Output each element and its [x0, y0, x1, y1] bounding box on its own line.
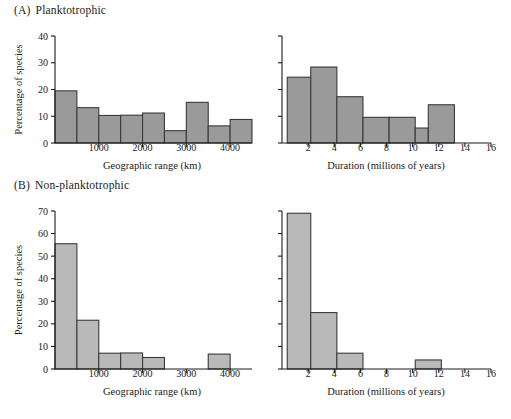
x-tick-label: 4000 [220, 142, 240, 153]
histogram-bar [287, 213, 311, 369]
histogram-bar [77, 108, 99, 143]
histogram-bar [143, 113, 165, 143]
x-tick-label: 14 [460, 142, 470, 153]
x-tick-label: 2000 [133, 368, 153, 379]
y-tick-label: 70 [38, 206, 48, 217]
x-tick-label: 3000 [176, 368, 196, 379]
x-tick-label: 4 [332, 142, 337, 153]
x-axis-title: Duration (millions of years) [327, 160, 445, 172]
y-tick-label: 20 [38, 84, 48, 95]
histogram-bar [208, 354, 230, 369]
y-tick-label: 0 [43, 364, 48, 375]
panel-b-label: Non-planktotrophic [35, 179, 129, 191]
x-tick-label: 2 [306, 368, 311, 379]
x-tick-label: 16 [486, 368, 496, 379]
bars-group [287, 213, 441, 369]
x-tick-label: 16 [486, 142, 496, 153]
y-tick-label: 10 [38, 341, 48, 352]
bars-group [55, 244, 230, 369]
chart-a-duration: 246810121416Duration (millions of years) [255, 18, 511, 175]
panel-a-tag: (A) [14, 4, 31, 16]
bars-group [287, 67, 454, 143]
y-tick-label: 10 [38, 111, 48, 122]
x-tick-label: 8 [384, 368, 389, 379]
y-tick-label: 20 [38, 318, 48, 329]
panel-a-title: (A)Planktotrophic [14, 4, 106, 16]
x-tick-label: 6 [358, 368, 363, 379]
histogram-bar [208, 126, 230, 143]
chart-svg-a1: 0102030401000200030004000Geographic rang… [0, 18, 256, 175]
panel-b-non-planktotrophic: (B)Non-planktotrophic 010203040506070100… [0, 175, 511, 419]
histogram-bar [55, 244, 77, 369]
panel-b-tag: (B) [14, 179, 30, 191]
x-tick-label: 4000 [220, 368, 240, 379]
panel-a-planktotrophic: (A)Planktotrophic 0102030401000200030004… [0, 0, 511, 175]
bars-group [55, 91, 252, 143]
x-tick-label: 1000 [89, 142, 109, 153]
x-tick-label: 14 [460, 368, 470, 379]
y-tick-label: 60 [38, 228, 48, 239]
y-tick-label: 30 [38, 57, 48, 68]
figure-histograms-larval-mode: (A)Planktotrophic 0102030401000200030004… [0, 0, 511, 419]
x-tick-label: 6 [358, 142, 363, 153]
x-tick-label: 8 [384, 142, 389, 153]
histogram-bar [389, 117, 415, 143]
x-tick-label: 2000 [133, 142, 153, 153]
histogram-bar [337, 353, 363, 369]
y-axis-title: Percentage of species [13, 245, 24, 335]
chart-a-geographic-range: 0102030401000200030004000Geographic rang… [0, 18, 256, 175]
histogram-bar [55, 91, 77, 143]
y-tick-label: 40 [38, 31, 48, 42]
y-tick-label: 0 [43, 138, 48, 149]
histogram-bar [337, 97, 363, 143]
histogram-bar [77, 320, 99, 369]
x-axis-title: Geographic range (km) [103, 386, 201, 398]
x-tick-label: 2 [306, 142, 311, 153]
histogram-bar [99, 115, 121, 143]
histogram-bar [99, 353, 121, 369]
panel-a-label: Planktotrophic [36, 4, 107, 16]
x-tick-label: 4 [332, 368, 337, 379]
x-tick-label: 10 [408, 142, 418, 153]
y-axis-title: Percentage of species [13, 44, 24, 134]
x-tick-label: 12 [434, 368, 444, 379]
y-tick-label: 40 [38, 273, 48, 284]
panel-b-title: (B)Non-planktotrophic [14, 179, 129, 191]
chart-b-geographic-range: 0102030405060701000200030004000Geographi… [0, 193, 256, 419]
x-tick-label: 3000 [176, 142, 196, 153]
histogram-bar [311, 67, 337, 143]
chart-svg-b1: 0102030405060701000200030004000Geographi… [0, 193, 256, 419]
x-axis-title: Duration (millions of years) [327, 386, 445, 398]
x-axis-title: Geographic range (km) [103, 160, 201, 172]
histogram-bar [121, 353, 143, 369]
histogram-bar [287, 77, 311, 143]
x-tick-label: 1000 [89, 368, 109, 379]
histogram-bar [186, 102, 208, 143]
y-tick-label: 30 [38, 296, 48, 307]
histogram-bar [230, 119, 252, 143]
histogram-bar [311, 313, 337, 369]
chart-svg-a2: 246810121416Duration (millions of years) [255, 18, 511, 175]
chart-b-duration: 246810121416Duration (millions of years) [255, 193, 511, 419]
chart-svg-b2: 246810121416Duration (millions of years) [255, 193, 511, 419]
histogram-bar [121, 115, 143, 143]
x-tick-label: 12 [434, 142, 444, 153]
y-tick-label: 50 [38, 251, 48, 262]
histogram-bar [363, 117, 389, 143]
x-tick-label: 10 [408, 368, 418, 379]
histogram-bar [415, 128, 428, 143]
histogram-bar [428, 105, 454, 143]
